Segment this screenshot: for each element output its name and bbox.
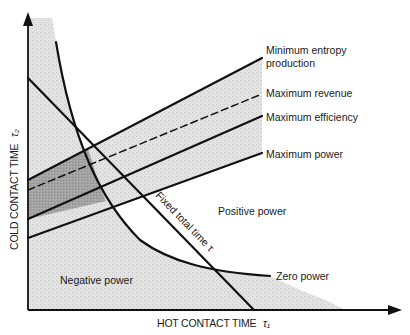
- label-max-revenue: Maximum revenue: [266, 87, 353, 99]
- y-axis-symbol: τ₂: [8, 129, 20, 137]
- x-axis-label-text: HOT CONTACT TIME: [157, 317, 256, 329]
- label-max-power: Maximum power: [266, 148, 344, 160]
- label-min-entropy-2: production: [266, 57, 315, 69]
- x-axis-label: HOT CONTACT TIME τ₁: [157, 317, 271, 329]
- label-zero-power: Zero power: [276, 270, 330, 282]
- x-axis-symbol: τ₁: [263, 317, 271, 329]
- label-min-entropy: Minimum entropy: [266, 44, 347, 56]
- y-axis-label: COLD CONTACT TIME τ₂: [8, 129, 20, 250]
- thermodynamic-tradeoff-diagram: Minimum entropy production Maximum reven…: [0, 0, 410, 335]
- label-fixed-total-time: Fixed total time τ: [154, 189, 218, 254]
- y-axis-label-text: COLD CONTACT TIME: [8, 144, 20, 250]
- label-positive-power: Positive power: [218, 205, 287, 217]
- x-axis-arrow-icon: [388, 305, 402, 315]
- label-negative-power: Negative power: [60, 274, 133, 286]
- label-max-efficiency: Maximum efficiency: [266, 111, 359, 123]
